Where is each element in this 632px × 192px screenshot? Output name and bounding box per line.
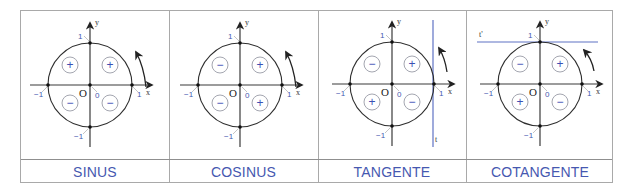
sign-q1: + (556, 57, 563, 71)
sign-q4: − (106, 96, 113, 110)
zero-label: 0 (95, 91, 100, 100)
svg-text:−1: −1 (484, 89, 494, 98)
sign-q2: + (66, 58, 73, 72)
sign-q3: − (216, 96, 223, 110)
svg-text:−1: −1 (34, 90, 44, 99)
rotation-arrow-icon (439, 48, 447, 72)
svg-text:0: 0 (397, 90, 402, 99)
svg-text:1: 1 (587, 89, 592, 98)
panel-cotangente: t' yx O 0 1 1 −1 −1 − + + − (477, 17, 602, 146)
svg-text:x: x (146, 88, 150, 97)
sign-q2: − (368, 57, 375, 71)
svg-text:1: 1 (380, 31, 385, 40)
svg-text:−1: −1 (376, 131, 386, 140)
svg-text:−1: −1 (74, 132, 84, 141)
svg-text:−1: −1 (524, 131, 534, 140)
svg-text:O: O (229, 87, 237, 99)
svg-text:y: y (95, 18, 99, 27)
svg-text:1: 1 (228, 32, 233, 41)
svg-text:1: 1 (287, 90, 292, 99)
svg-text:y: y (545, 17, 549, 26)
svg-text:1: 1 (439, 89, 444, 98)
svg-text:y: y (397, 17, 401, 26)
svg-text:O: O (529, 86, 537, 98)
svg-text:1: 1 (137, 90, 142, 99)
svg-text:−1: −1 (336, 89, 346, 98)
svg-text:t': t' (479, 30, 483, 39)
svg-text:0: 0 (545, 90, 550, 99)
svg-text:−1: −1 (184, 90, 194, 99)
svg-text:t: t (435, 135, 438, 144)
svg-text:0: 0 (245, 91, 250, 100)
sign-q3: − (66, 96, 73, 110)
rotation-arrow-icon (584, 50, 594, 71)
rotation-arrow-icon (136, 52, 146, 87)
svg-text:x: x (448, 87, 452, 96)
svg-text:O: O (79, 87, 87, 99)
sign-q3: + (368, 95, 375, 109)
svg-text:x: x (596, 87, 600, 96)
rotation-arrow-icon (286, 52, 296, 87)
svg-text:1: 1 (78, 32, 83, 41)
sign-q4: + (256, 96, 263, 110)
svg-text:O: O (381, 86, 389, 98)
sign-q4: − (556, 95, 563, 109)
unit-circle-diagrams: yx O 0 1 1 −1 −1 + + − − yx O 0 1 1 −1 −… (0, 0, 632, 192)
sign-q2: − (516, 57, 523, 71)
sign-q4: − (408, 95, 415, 109)
sign-q3: + (516, 95, 523, 109)
panel-cosinus: yx O 0 1 1 −1 −1 − + − + (180, 18, 302, 147)
sign-q1: + (256, 58, 263, 72)
panel-sinus: yx O 0 1 1 −1 −1 + + − − (30, 18, 152, 147)
sign-q1: + (408, 57, 415, 71)
svg-text:x: x (296, 88, 300, 97)
sign-q2: − (216, 58, 223, 72)
sign-q1: + (106, 58, 113, 72)
svg-text:−1: −1 (224, 132, 234, 141)
svg-text:1: 1 (528, 31, 533, 40)
panel-tangente: t yx O 0 1 1 −1 −1 − + + − (332, 17, 454, 147)
svg-text:y: y (245, 18, 249, 27)
